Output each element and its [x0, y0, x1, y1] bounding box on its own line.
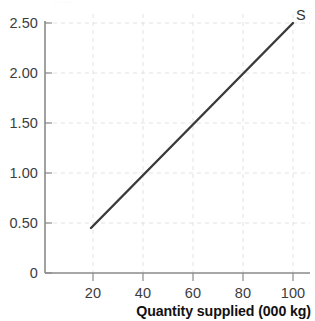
y-tick-label-0-50: 0.50 [0, 216, 38, 231]
supply-curve-chart: ·· ·· [0, 0, 315, 321]
y-axis [45, 21, 52, 273]
x-tick-label-100: 100 [273, 286, 313, 301]
y-tick-label-2-00: 2.00 [0, 66, 38, 81]
chart-plot-area [0, 0, 315, 321]
x-tick-label-60: 60 [173, 286, 213, 301]
x-tick-label-80: 80 [223, 286, 263, 301]
y-tick-label-1-00: 1.00 [0, 166, 38, 181]
y-tick-label-0: 0 [0, 266, 38, 281]
y-tick-label-1-50: 1.50 [0, 116, 38, 131]
horizontal-gridlines [45, 23, 310, 223]
y-tick-label-2-50: 2.50 [0, 16, 38, 31]
x-axis-title: Quantity supplied (000 kg) [0, 304, 311, 318]
supply-curve-label: S [296, 8, 306, 23]
x-tick-label-20: 20 [73, 286, 113, 301]
supply-curve-line [91, 23, 293, 228]
x-tick-label-40: 40 [123, 286, 163, 301]
x-axis [45, 273, 310, 281]
